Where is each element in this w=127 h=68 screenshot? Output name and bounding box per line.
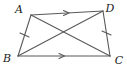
diagonal-BD — [18, 11, 103, 56]
vertex-label-d: D — [105, 2, 115, 15]
vertex-label-b: B — [2, 52, 11, 65]
vertex-label-c: C — [115, 54, 124, 67]
vertex-label-a: A — [14, 3, 23, 16]
trapezoid-diagram: A D B C — [0, 0, 127, 68]
diagonal-AC — [31, 15, 110, 56]
diagonals — [18, 11, 110, 56]
geometry-figure: A D B C — [0, 0, 127, 68]
